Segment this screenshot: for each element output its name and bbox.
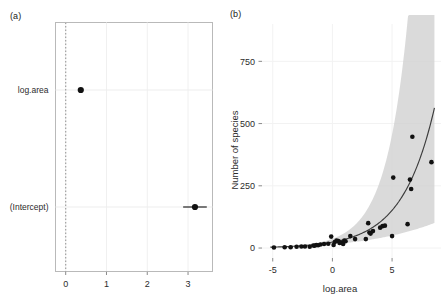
data-point (391, 175, 396, 180)
data-point (383, 223, 388, 228)
data-point (371, 229, 376, 234)
estimate-point (192, 204, 198, 210)
data-point (322, 242, 327, 247)
data-point (390, 234, 395, 239)
coefficient-row (78, 87, 84, 93)
panel-a-x-axis: 0123 (63, 272, 190, 289)
estimate-point (78, 87, 84, 93)
panel-b-x-axis: -505 (269, 258, 395, 275)
data-point (272, 245, 277, 250)
data-point (410, 134, 415, 139)
x-tick-label: 2 (145, 279, 150, 289)
data-point (326, 242, 331, 247)
panel-a-frame (56, 23, 213, 272)
x-tick-label: 5 (390, 265, 395, 275)
panel-a-label: (a) (10, 11, 21, 21)
x-tick-label: 0 (63, 279, 68, 289)
data-point (348, 234, 353, 239)
panel-a: (a) 0123 log.area(Intercept) (0, 0, 222, 300)
y-tick-label: 750 (240, 57, 255, 67)
coefficient-plot-svg: 0123 log.area(Intercept) (0, 0, 222, 300)
data-point (294, 245, 299, 250)
panel-b: (b) -505 0250500750 log.area Number of s… (222, 0, 445, 300)
y-tick-label: 250 (240, 181, 255, 191)
data-point (429, 160, 434, 165)
y-tick-label: 0 (250, 243, 255, 253)
data-point (409, 187, 414, 192)
species-area-plot-svg: -505 0250500750 log.area Number of speci… (222, 0, 445, 300)
figure-container: (a) 0123 log.area(Intercept) (b) -505 02… (0, 0, 445, 300)
panel-b-y-axis: 0250500750 (240, 57, 262, 254)
data-point (343, 239, 348, 244)
data-point (366, 221, 371, 226)
coefficient-term-label: (Intercept) (10, 202, 49, 212)
confidence-band (270, 15, 434, 247)
x-tick-label: 3 (186, 279, 191, 289)
panel-b-label: (b) (230, 9, 241, 19)
data-point (353, 237, 358, 242)
data-point (364, 237, 369, 242)
data-point (405, 222, 410, 227)
data-point (288, 245, 293, 250)
data-point (329, 234, 334, 239)
y-tick-label: 500 (240, 119, 255, 129)
x-tick-label: 0 (330, 265, 335, 275)
panel-b-x-axis-title: log.area (323, 283, 358, 294)
panel-b-y-axis-title: Number of species (229, 110, 240, 189)
data-point (408, 177, 413, 182)
x-tick-label: 1 (104, 279, 109, 289)
data-point (303, 244, 308, 249)
coefficient-term-label: log.area (18, 85, 49, 95)
x-tick-label: -5 (269, 265, 277, 275)
data-point (282, 245, 287, 250)
